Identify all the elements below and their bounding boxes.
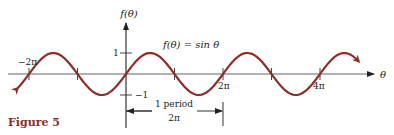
figure-caption: Figure 5: [8, 116, 60, 129]
period-value: 2π: [168, 113, 180, 123]
y-axis-label: f(θ): [119, 8, 138, 19]
x-tick-label-2pi: 2π: [218, 81, 230, 91]
function-label: f(θ) = sin θ: [162, 39, 219, 50]
y-tick-label-1: 1: [113, 48, 119, 58]
y-tick-label-neg-1: −1: [135, 90, 148, 100]
x-tick-label-4pi: 4π: [313, 81, 325, 91]
x-tick-label-neg-2pi: −2π: [18, 57, 37, 67]
sine-figure: f(θ) θ f(θ) = sin θ −2π 2π 4π 1 −1 1 per…: [0, 0, 394, 135]
period-label: 1 period: [155, 99, 193, 109]
x-axis-label: θ: [380, 69, 386, 80]
